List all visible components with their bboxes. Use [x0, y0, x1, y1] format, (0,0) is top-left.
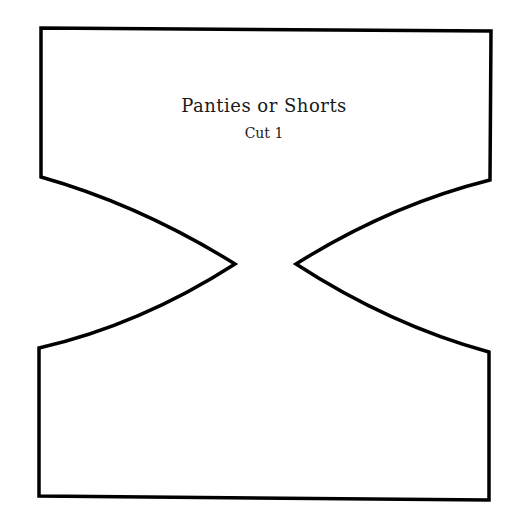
pattern-canvas: Panties or Shorts Cut 1 [0, 0, 528, 525]
pattern-title: Panties or Shorts [0, 95, 528, 116]
pattern-outline [0, 0, 528, 525]
pattern-cut-instruction: Cut 1 [0, 125, 528, 141]
